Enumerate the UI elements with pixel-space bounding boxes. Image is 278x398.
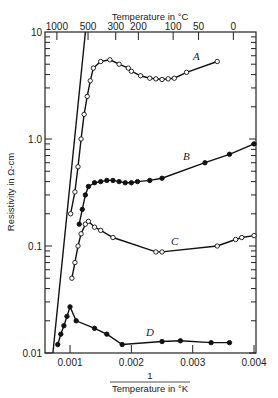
series-A-point — [79, 137, 83, 141]
series-D-point — [209, 340, 213, 344]
top-tick-label: 300 — [107, 21, 124, 32]
top-tick-label: 50 — [193, 21, 205, 32]
series-D-point — [62, 323, 66, 327]
series-A-point — [82, 112, 86, 116]
series-C-point — [160, 250, 164, 254]
series-A-point — [138, 74, 142, 78]
series-B-point — [105, 178, 109, 182]
series-C-point — [86, 219, 90, 223]
series-B-point — [227, 152, 231, 156]
series-C-point — [215, 244, 219, 248]
series-D-point — [160, 339, 164, 343]
series-C-point — [92, 225, 96, 229]
top-tick-label: 1000 — [46, 21, 69, 32]
series-C-point — [73, 260, 77, 264]
curve-label-b: B — [183, 150, 190, 162]
top-tick-label: 200 — [130, 21, 147, 32]
series-B-point — [86, 184, 90, 188]
y-tick-label: 0.1 — [28, 241, 42, 252]
series-C-point — [76, 244, 80, 248]
top-axis-ticks: 1000500300200100500 — [46, 21, 237, 40]
series-D-point — [74, 319, 78, 323]
series-B-point — [98, 179, 102, 183]
x-tick-label: 0.002 — [119, 357, 144, 368]
series-B-point — [203, 161, 207, 165]
top-tick-label: 100 — [165, 21, 182, 32]
series-A-point — [76, 165, 80, 169]
series-A-point — [88, 79, 92, 83]
series-C-point — [79, 232, 83, 236]
series-A-point — [154, 77, 158, 81]
series-B-point — [160, 176, 164, 180]
data-series — [53, 32, 256, 353]
series-B-point — [117, 179, 121, 183]
series-A-point — [166, 77, 170, 81]
series-B-point — [111, 178, 115, 182]
series-D-point — [178, 339, 182, 343]
y-tick-label: 1.0 — [28, 134, 42, 145]
series-B-point — [148, 178, 152, 182]
x-tick-label: 0.001 — [58, 357, 83, 368]
series-A-point — [73, 190, 77, 194]
series-A-point — [85, 94, 89, 98]
y-axis-title: Resistivity in Ω-cm — [5, 153, 16, 231]
series-D-point — [120, 342, 124, 346]
series-C-point — [111, 235, 115, 239]
series-B-point — [129, 181, 133, 185]
series-D-point — [92, 326, 96, 330]
x-tick-label: 0.003 — [180, 357, 205, 368]
curve-label-d: D — [145, 326, 154, 338]
series-A-point — [68, 212, 72, 216]
series-A-point — [148, 76, 152, 80]
x-axis-denominator: Temperature in °K — [112, 383, 189, 394]
y-tick-label: 10 — [31, 27, 43, 38]
series-D-point — [227, 340, 231, 344]
x-tick-label: 0.004 — [242, 357, 267, 368]
series-A-point — [215, 59, 219, 63]
curve-label-c: C — [171, 235, 179, 247]
series-B-point — [252, 142, 256, 146]
series-C-point — [98, 228, 102, 232]
series-B-point — [83, 193, 87, 197]
series-C-point — [252, 233, 256, 237]
series-C-point — [233, 237, 237, 241]
series-A-point — [108, 58, 112, 62]
series-A-point — [129, 69, 133, 73]
series-D-point — [56, 342, 60, 346]
top-tick-label: 500 — [80, 21, 97, 32]
x-axis-ticks: 0.0010.0020.0030.004 — [58, 345, 267, 368]
chart: Temperature in °C 1000500300200100500 0.… — [0, 0, 278, 398]
series-A-point — [184, 70, 188, 74]
series-B-point — [77, 222, 81, 226]
series-D-point — [105, 332, 109, 336]
top-tick-label: 0 — [231, 21, 237, 32]
series-A-line — [71, 60, 218, 214]
series-A-point — [160, 77, 164, 81]
series-B-point — [80, 207, 84, 211]
x-axis-numerator: 1 — [147, 370, 152, 381]
series-B-point — [123, 181, 127, 185]
series-D-line — [58, 307, 230, 345]
series-A-point — [91, 66, 95, 70]
curve-label-a: A — [192, 50, 200, 62]
series-A-point — [172, 76, 176, 80]
y-tick-label: 0.01 — [23, 348, 43, 359]
series-A-point — [98, 59, 102, 63]
series-C-point — [154, 250, 158, 254]
series-A-point — [117, 62, 121, 66]
series-C-point — [240, 235, 244, 239]
series-D-point — [65, 314, 69, 318]
series-D-point — [68, 305, 72, 309]
series-B-point — [92, 181, 96, 185]
series-B-point — [135, 179, 139, 183]
series-D-point — [59, 332, 63, 336]
series-C-point — [70, 276, 74, 280]
